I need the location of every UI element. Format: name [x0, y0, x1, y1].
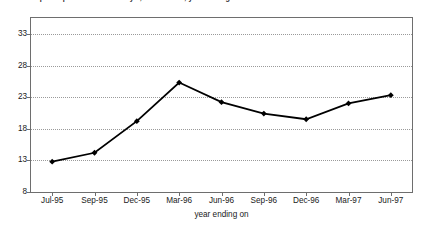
y-axis-tick-mark — [27, 66, 30, 67]
chart-figure: Graph: Representation of X by Y, index v… — [0, 0, 443, 232]
data-point-marker — [388, 92, 394, 98]
y-axis-tick-label: 8 — [3, 188, 27, 196]
y-axis-tick-label: 18 — [3, 125, 27, 133]
y-axis-tick-label: 28 — [3, 62, 27, 70]
data-point-marker — [303, 116, 309, 122]
y-axis-labels: 81318232833 — [0, 18, 27, 192]
y-axis-tick-label: 23 — [3, 93, 27, 101]
data-point-marker — [49, 159, 55, 165]
plot-area — [31, 18, 412, 192]
y-axis-tick-mark — [27, 34, 30, 35]
figure-caption-text: Graph: Representation of X by Y, index v… — [27, 0, 427, 2]
x-axis-tick-label: Jun-97 — [359, 196, 423, 206]
y-axis-tick-mark — [27, 160, 30, 161]
y-axis-tick-label: 33 — [3, 30, 27, 38]
y-axis-tick-mark — [27, 129, 30, 130]
y-axis-tick-label: 13 — [3, 156, 27, 164]
x-axis-labels: Jul-95Sep-95Dec-95Mar-96Jun-96Sep-96Dec-… — [0, 196, 443, 210]
data-point-marker — [346, 101, 352, 107]
y-axis-tick-mark — [27, 192, 30, 193]
y-axis-tick-mark — [27, 97, 30, 98]
x-axis-title: year ending on — [31, 210, 412, 219]
data-point-marker — [219, 99, 225, 105]
series-line-chart — [31, 18, 412, 192]
figure-caption-clipped: Graph: Representation of X by Y, index v… — [27, 0, 427, 3]
data-point-marker — [261, 111, 267, 117]
series-line — [52, 83, 391, 162]
